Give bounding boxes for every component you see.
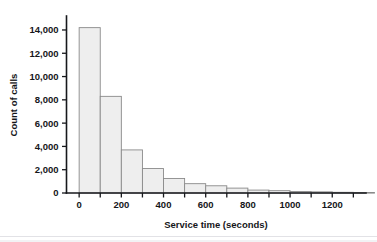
- y-tick-label: 12,000: [29, 48, 58, 59]
- x-tick-label: 1200: [322, 199, 343, 210]
- histogram-bar: [100, 96, 121, 193]
- histogram-chart: 02,0004,0006,0008,00010,00012,00014,000 …: [0, 0, 377, 242]
- page-divider: [0, 236, 377, 237]
- x-tick-label: 800: [240, 199, 256, 210]
- y-tick-label: 4,000: [35, 141, 59, 152]
- histogram-bar: [185, 184, 206, 193]
- y-tick-labels: 02,0004,0006,0008,00010,00012,00014,000: [29, 24, 58, 198]
- figure-canvas: 02,0004,0006,0008,00010,00012,00014,000 …: [0, 0, 377, 242]
- y-tick-label: 2,000: [35, 164, 59, 175]
- x-tick-labels: 020040060080010001200: [77, 199, 343, 210]
- x-tick-label: 400: [156, 199, 172, 210]
- x-axis-title: Service time (seconds): [164, 219, 268, 230]
- histogram-bar: [79, 28, 100, 193]
- y-tick-label: 10,000: [29, 71, 58, 82]
- bars-group: [79, 28, 374, 193]
- x-axis: [67, 193, 367, 198]
- y-tick-label: 14,000: [29, 24, 58, 35]
- histogram-bar: [164, 178, 185, 193]
- y-axis: [62, 16, 67, 193]
- histogram-bar: [121, 150, 142, 193]
- y-tick-label: 8,000: [35, 94, 59, 105]
- x-tick-label: 600: [198, 199, 214, 210]
- histogram-bar: [142, 169, 163, 193]
- x-tick-label: 0: [77, 199, 82, 210]
- x-tick-label: 1000: [279, 199, 300, 210]
- histogram-bar: [206, 186, 227, 193]
- x-tick-label: 200: [113, 199, 129, 210]
- y-tick-label: 0: [53, 187, 58, 198]
- y-axis-title: Count of calls: [8, 74, 19, 137]
- y-tick-label: 6,000: [35, 118, 59, 129]
